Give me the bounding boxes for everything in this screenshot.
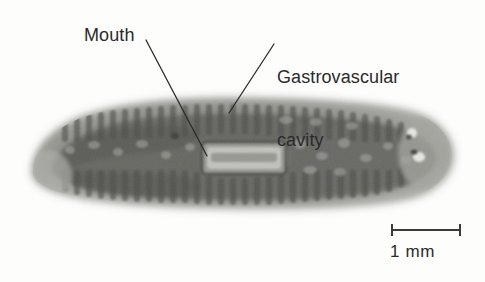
- scale-bar-label: 1 mm: [390, 241, 435, 262]
- specimen-planarian: [0, 80, 485, 230]
- label-mouth: Mouth: [84, 25, 135, 46]
- scale-bar: [391, 224, 461, 236]
- label-gastrovascular-line1: Gastrovascular: [277, 67, 399, 88]
- figure-container: Mouth Gastrovascular cavity 1 mm: [0, 0, 485, 282]
- label-gastrovascular-cavity: Gastrovascular cavity: [277, 25, 399, 193]
- label-gastrovascular-line2: cavity: [277, 130, 399, 151]
- planarian-figure-svg: [0, 0, 485, 282]
